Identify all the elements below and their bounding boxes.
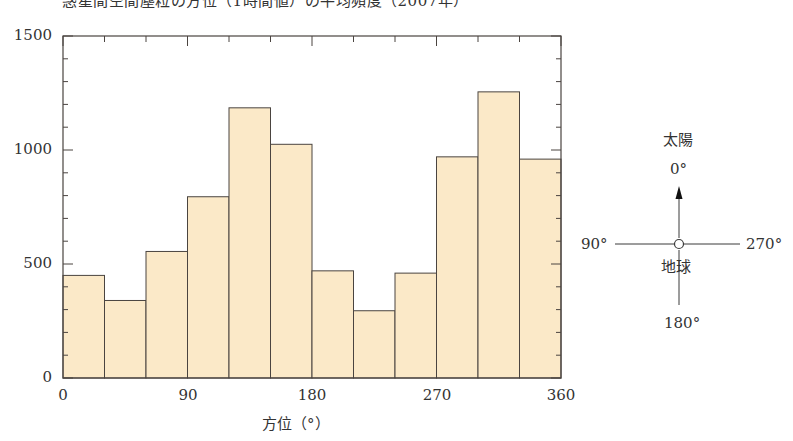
angle-label-180: 180° <box>664 314 700 332</box>
angle-label-270: 270° <box>746 235 782 253</box>
histogram-bar-210-240 <box>354 311 396 378</box>
histogram-bar-300-330 <box>478 92 520 378</box>
earth-label: 地球 <box>661 255 691 276</box>
histogram-bar-180-210 <box>312 271 354 378</box>
angle-label-0: 0° <box>670 160 687 178</box>
histogram-bar-120-150 <box>229 108 271 378</box>
sun-label: 太陽 <box>663 128 693 149</box>
histogram-bar-330-360 <box>520 159 562 378</box>
histogram-bar-150-180 <box>271 144 313 378</box>
angle-label-90: 90° <box>581 235 608 253</box>
histogram-bar-0-30 <box>63 275 105 378</box>
histogram-bars <box>63 92 561 378</box>
histogram-bar-60-90 <box>146 251 188 378</box>
histogram-plot <box>0 0 793 441</box>
histogram-bar-30-60 <box>105 300 147 378</box>
histogram-bar-270-300 <box>437 157 479 378</box>
histogram-bar-90-120 <box>188 197 230 378</box>
earth-circle-icon <box>675 240 684 249</box>
histogram-bar-240-270 <box>395 273 437 378</box>
direction-diagram <box>615 186 740 305</box>
arrow-up-icon <box>676 186 683 199</box>
